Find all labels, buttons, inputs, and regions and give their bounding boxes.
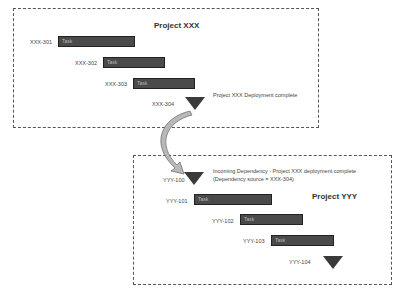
dependency-arrow <box>0 0 394 290</box>
task-bar[interactable]: Task <box>271 235 334 246</box>
incoming-milestone-triangle-icon[interactable] <box>184 172 204 185</box>
incoming-dependency-note-line1: Incoming Dependency - Project XXX deploy… <box>213 167 356 175</box>
milestone-triangle-icon[interactable] <box>323 256 343 269</box>
task-id-label: YYY-102 <box>212 218 234 224</box>
project-yyy-title: Project YYY <box>312 192 357 201</box>
task-bar[interactable]: Task <box>194 194 272 205</box>
task-id-label: YYY-101 <box>166 198 188 204</box>
task-bar[interactable]: Task <box>240 214 303 225</box>
milestone-id-label: YYY-100 <box>163 177 185 183</box>
milestone-id-label: YYY-104 <box>289 259 311 265</box>
task-id-label: YYY-103 <box>243 238 265 244</box>
incoming-dependency-note-line2: (Dependency source = XXX-304) <box>213 175 294 183</box>
curved-arrow-icon <box>161 111 192 174</box>
